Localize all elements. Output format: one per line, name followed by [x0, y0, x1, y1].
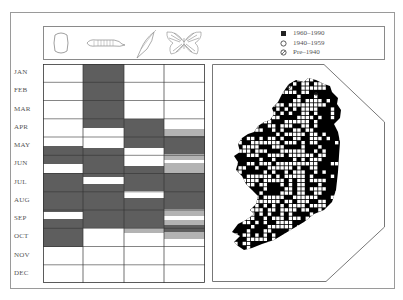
- month-label-sep: SEP: [14, 214, 27, 222]
- grid-lines: [43, 64, 205, 283]
- month-label-feb: FEB: [14, 86, 27, 94]
- month-label-oct: OCT: [14, 232, 29, 240]
- month-label-apr: APR: [14, 123, 28, 131]
- butterfly-icon: [165, 29, 203, 57]
- filled-square-icon: [280, 30, 288, 38]
- caterpillar-icon: [84, 29, 126, 57]
- month-label-jul: JUL: [14, 178, 27, 186]
- header-panel: 1960–1990 1940–1959 Pre–1940: [43, 26, 385, 60]
- month-label-mar: MAR: [14, 105, 31, 113]
- month-label-nov: NOV: [14, 251, 30, 259]
- month-label-jan: JAN: [14, 68, 27, 76]
- month-label-may: MAY: [14, 141, 30, 149]
- open-circle-icon: [280, 40, 288, 48]
- month-label-jun: JUN: [14, 159, 27, 167]
- month-label-dec: DEC: [14, 269, 29, 277]
- egg-icon: [52, 29, 70, 57]
- month-label-aug: AUG: [14, 196, 30, 204]
- distribution-map: [212, 64, 386, 282]
- legend-label: Pre–1940: [293, 48, 320, 58]
- chrysalis-icon: [135, 29, 157, 59]
- phenology-chart: [43, 64, 205, 283]
- legend-label: 1940–1959: [293, 39, 325, 49]
- slashed-circle-icon: [280, 49, 288, 57]
- legend-label: 1960–1990: [293, 29, 325, 39]
